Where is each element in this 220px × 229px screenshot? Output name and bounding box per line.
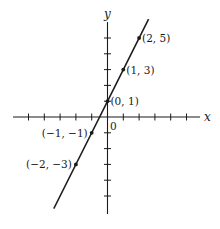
data-point [121, 68, 125, 72]
line-y-equals-2x-plus-1 [54, 19, 149, 209]
coordinate-plot: (2, 5)(1, 3)(0, 1)(−1, −1)(−2, −3) x y 0 [0, 0, 220, 229]
origin-label: 0 [110, 120, 117, 132]
data-point [74, 163, 78, 167]
data-point [90, 131, 94, 135]
labeled-points: (2, 5)(1, 3)(0, 1)(−1, −1)(−2, −3) [26, 32, 170, 170]
point-label: (−2, −3) [26, 158, 72, 170]
data-point [106, 99, 110, 103]
x-axis-label: x [204, 110, 211, 124]
plotted-line [54, 19, 149, 209]
point-label: (1, 3) [126, 64, 154, 76]
point-label: (2, 5) [142, 32, 170, 44]
point-label: (0, 1) [111, 95, 139, 107]
point-label: (−1, −1) [42, 127, 88, 139]
axes [13, 22, 200, 214]
y-axis-label: y [103, 7, 111, 21]
data-point [137, 36, 141, 40]
